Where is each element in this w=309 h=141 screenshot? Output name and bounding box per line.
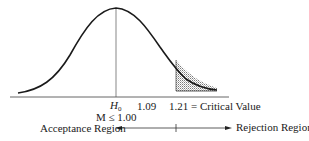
rejection-region-label: Rejection Region <box>236 122 309 133</box>
arrow-right-icon <box>225 126 232 130</box>
distribution-diagram <box>0 0 309 141</box>
critical-value-label: 1.21 = Critical Value <box>169 101 261 112</box>
normal-curve <box>18 8 217 93</box>
value-1-09-label: 1.09 <box>137 101 156 112</box>
acceptance-region-label: Acceptance Region <box>40 123 126 134</box>
